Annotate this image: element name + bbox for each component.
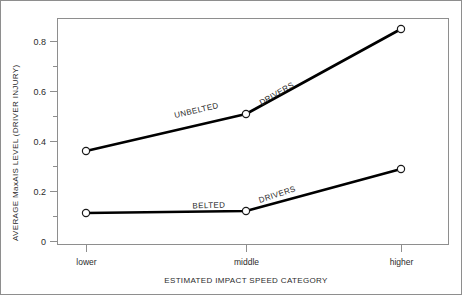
belted-marker-lower xyxy=(82,209,89,216)
belted-marker-middle xyxy=(242,207,249,214)
y-axis-major-ticks xyxy=(50,42,57,242)
x-tick-label-lower: lower xyxy=(76,257,96,267)
unbelted-marker-lower xyxy=(82,147,89,154)
x-tick-label-higher: higher xyxy=(390,257,414,267)
line-chart: 0.8 0.6 0.4 0.2 0 AVERAGE MaxAIS LEVEL (… xyxy=(1,1,462,295)
belted-marker-higher xyxy=(397,165,404,172)
y-tick-label-0-8: 0.8 xyxy=(33,37,46,47)
belted-label-part1: BELTED xyxy=(192,200,225,210)
y-tick-label-0-4: 0.4 xyxy=(33,137,46,147)
unbelted-marker-higher xyxy=(397,25,404,32)
x-tick-label-middle: middle xyxy=(234,257,259,267)
y-tick-label-0-6: 0.6 xyxy=(33,87,46,97)
y-tick-label-0-2: 0.2 xyxy=(33,187,46,197)
figure-page: AVERAGE MaxAIS LEVEL (DRIVER INJURY) 0.8… xyxy=(0,0,462,295)
plot-frame xyxy=(58,19,449,245)
y-tick-label-0: 0 xyxy=(41,237,46,247)
x-axis-title: ESTIMATED IMPACT SPEED CATEGORY xyxy=(164,276,328,285)
y-axis-title: AVERAGE MaxAIS LEVEL (DRIVER INJURY) xyxy=(11,65,20,242)
x-axis-ticks xyxy=(87,245,402,252)
unbelted-marker-middle xyxy=(242,110,249,117)
